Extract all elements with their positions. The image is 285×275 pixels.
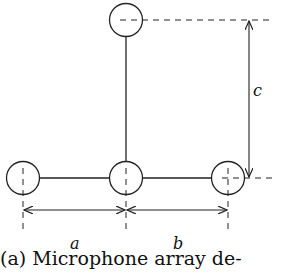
- figure-caption: (a) Microphone array de-: [0, 247, 285, 269]
- mic-left: [7, 162, 40, 195]
- microphone-array-diagram: a b c: [0, 0, 285, 275]
- mic-center: [110, 162, 143, 195]
- label-c: c: [253, 81, 262, 100]
